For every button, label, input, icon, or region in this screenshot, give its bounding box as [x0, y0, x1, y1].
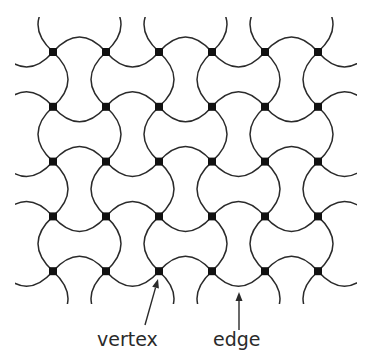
edge	[212, 201, 265, 216]
edge	[106, 92, 159, 107]
vertex-dot	[155, 267, 163, 275]
edge	[106, 0, 121, 52]
edge	[318, 52, 371, 67]
edge	[53, 52, 68, 107]
edge	[303, 271, 318, 326]
vertex-dot	[49, 212, 57, 220]
vertices	[49, 48, 322, 275]
edge	[159, 107, 212, 122]
edge	[265, 216, 318, 231]
edge	[91, 162, 106, 217]
vertex-dot	[49, 158, 57, 166]
edge	[38, 107, 53, 162]
edge	[38, 216, 53, 271]
edge	[106, 216, 121, 271]
edge	[91, 271, 106, 326]
edge	[318, 271, 371, 286]
edge	[53, 37, 106, 52]
edge	[318, 0, 333, 52]
edge	[265, 271, 280, 326]
vertex-dot	[102, 158, 110, 166]
edge	[159, 162, 174, 217]
edge	[53, 147, 106, 162]
edge	[212, 162, 265, 177]
vertex-dot	[208, 212, 216, 220]
vertex-dot	[314, 48, 322, 56]
vertex-dot	[49, 267, 57, 275]
vertex-dot	[314, 212, 322, 220]
edge-annotation: edge	[213, 292, 261, 350]
edge	[212, 216, 227, 271]
edge	[197, 52, 212, 107]
edge	[212, 52, 265, 67]
edge	[0, 271, 53, 286]
vertex-dot	[155, 48, 163, 56]
vertex-dot	[314, 267, 322, 275]
vertex-dot	[261, 158, 269, 166]
edge	[250, 107, 265, 162]
edge-arrowhead-icon	[236, 292, 243, 301]
edge	[303, 162, 318, 217]
edge	[303, 52, 318, 107]
edge	[318, 201, 371, 216]
edge	[159, 216, 212, 231]
edge	[91, 52, 106, 107]
edge	[0, 52, 53, 67]
vertex-dot	[208, 158, 216, 166]
edge	[106, 107, 121, 162]
edge	[250, 0, 265, 52]
edge	[0, 201, 53, 216]
edge	[318, 162, 371, 177]
edge	[265, 37, 318, 52]
vertex-dot	[155, 212, 163, 220]
vertex-dot	[208, 103, 216, 111]
edge	[197, 271, 212, 326]
vertex-label: vertex	[97, 328, 158, 350]
edge	[250, 216, 265, 271]
edge	[212, 271, 265, 286]
edge-label: edge	[213, 328, 261, 350]
vertex-dot	[155, 103, 163, 111]
vertex-dot	[261, 212, 269, 220]
edge	[106, 271, 159, 286]
edge	[53, 256, 106, 271]
edge	[106, 52, 159, 67]
edge	[159, 37, 212, 52]
edge	[0, 92, 53, 107]
vertex-dot	[208, 267, 216, 275]
vertex-dot	[49, 103, 57, 111]
vertex-dot	[49, 48, 57, 56]
vertex-dot	[102, 48, 110, 56]
edge	[53, 216, 106, 231]
vertex-dot	[102, 103, 110, 111]
edge	[144, 107, 159, 162]
tiling-diagram: vertex edge	[0, 0, 373, 357]
edge	[212, 0, 227, 52]
edge	[265, 147, 318, 162]
vertex-arrow-icon	[145, 288, 156, 325]
vertex-arrowhead-icon	[152, 279, 159, 289]
vertex-dot	[261, 267, 269, 275]
edge	[159, 147, 212, 162]
edge	[38, 0, 53, 52]
edge	[53, 162, 68, 217]
edge	[53, 107, 106, 122]
edge	[265, 107, 318, 122]
edge	[144, 0, 159, 52]
edge	[318, 107, 333, 162]
edge	[265, 256, 318, 271]
edge	[159, 256, 212, 271]
edge	[197, 162, 212, 217]
vertex-dot	[261, 103, 269, 111]
vertex-dot	[208, 48, 216, 56]
edge	[212, 92, 265, 107]
vertex-dot	[102, 267, 110, 275]
edge	[106, 162, 159, 177]
edge	[318, 216, 333, 271]
edge	[159, 52, 174, 107]
edge	[318, 92, 371, 107]
vertex-dot	[102, 212, 110, 220]
edge	[265, 52, 280, 107]
edge	[265, 162, 280, 217]
vertex-dot	[155, 158, 163, 166]
